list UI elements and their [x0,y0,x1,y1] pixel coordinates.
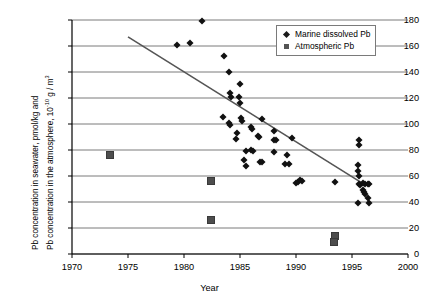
data-point-atmospheric [106,151,114,159]
diamond-marker-icon [281,28,292,40]
legend-label-atmospheric: Atmospheric Pb [295,40,354,52]
legend-item-marine: Marine dissolved Pb [281,28,370,40]
data-point-atmospheric [330,238,338,246]
data-point-atmospheric [207,177,215,185]
legend-item-atmospheric: Atmospheric Pb [281,40,370,52]
data-point-atmospheric [207,216,215,224]
legend: Marine dissolved Pb Atmospheric Pb [276,25,376,56]
legend-label-marine: Marine dissolved Pb [295,28,370,40]
square-marker-icon [281,40,292,52]
